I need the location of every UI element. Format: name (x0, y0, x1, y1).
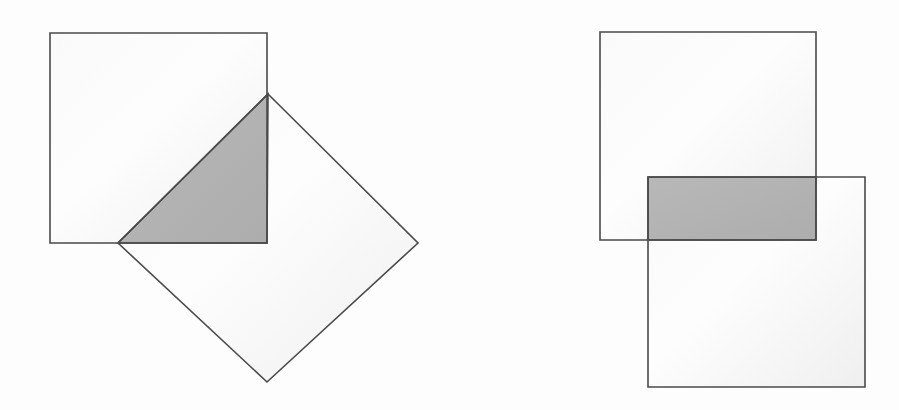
right-intersection-rectangle-fill (648, 177, 816, 240)
figure-canvas (0, 0, 899, 410)
figure-svg (0, 0, 899, 410)
